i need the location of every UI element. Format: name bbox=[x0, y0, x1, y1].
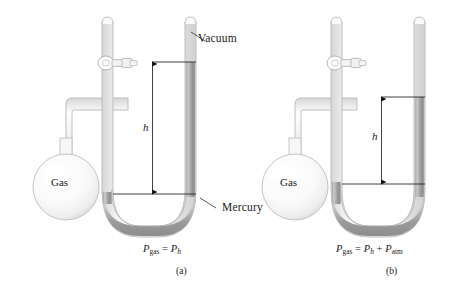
panel-b-connector-tube bbox=[295, 98, 357, 158]
panel-a-mercury-right-arm bbox=[186, 62, 195, 197]
panel-b-eq-term2-sub: atm bbox=[392, 247, 403, 256]
panel-a-apparatus bbox=[33, 17, 216, 237]
panel-b-caption: (b) bbox=[386, 266, 397, 276]
panel-b-equation: Pgas = Ph + Patm bbox=[336, 243, 403, 256]
panel-b-height-label: h bbox=[372, 130, 378, 142]
panel-b-eq-plus: + bbox=[377, 243, 383, 254]
panel-a-gas-label: Gas bbox=[51, 176, 68, 188]
panel-a-caption: (a) bbox=[176, 266, 187, 276]
panel-b-stopcock-icon bbox=[327, 56, 366, 70]
panel-a-mercury-left-arm bbox=[103, 192, 112, 204]
panel-b-u-tube-glass bbox=[331, 17, 425, 237]
vacuum-label: Vacuum bbox=[198, 32, 237, 44]
panel-a-eq-lhs-sub: gas bbox=[149, 247, 159, 256]
panel-a-eq-term1-sub: h bbox=[177, 247, 181, 256]
panel-b-apparatus bbox=[262, 17, 425, 237]
panel-a-eq-op: = bbox=[162, 243, 168, 254]
panel-b-mercury-left-arm bbox=[332, 182, 341, 204]
panel-a-connector-tube bbox=[66, 98, 128, 158]
panel-a-mercury-leader-line bbox=[200, 198, 216, 208]
panel-b-eq-lhs-sub: gas bbox=[342, 247, 352, 256]
panel-a-stopcock-icon bbox=[98, 56, 137, 70]
panel-b-eq-term2-main: P bbox=[385, 243, 391, 254]
panel-b-gas-label: Gas bbox=[280, 176, 297, 188]
panel-a-equation: Pgas = Ph bbox=[143, 243, 181, 256]
panel-a-u-tube-glass bbox=[102, 17, 196, 237]
panel-b-mercury-right-arm bbox=[415, 97, 424, 197]
panel-a-height-dimension bbox=[113, 62, 196, 194]
panel-a-height-label: h bbox=[143, 121, 149, 133]
mercury-label: Mercury bbox=[222, 201, 263, 213]
panel-b-eq-op: = bbox=[355, 243, 361, 254]
figure-canvas: Vacuum Mercury Gas Gas h h Pgas = Ph Pga… bbox=[0, 0, 456, 297]
panel-b-eq-term1-sub: h bbox=[370, 247, 374, 256]
